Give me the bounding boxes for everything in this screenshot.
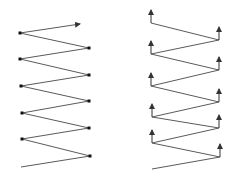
vertex-dot — [89, 155, 92, 158]
vertex-dot — [19, 32, 22, 35]
vertex-dot — [88, 100, 91, 103]
left-zigzag-with-dots — [19, 24, 92, 167]
vertex-dot — [88, 74, 91, 77]
vertex-dot — [19, 58, 22, 61]
vertex-dot — [21, 138, 24, 141]
vertex-dot — [88, 127, 91, 130]
right-zigzag-line — [151, 23, 220, 169]
vertex-dot — [20, 85, 23, 88]
zigzag-diagram-canvas — [0, 0, 232, 187]
vertex-dot — [88, 47, 91, 50]
left-zigzag-line — [20, 24, 90, 167]
vertex-dot — [21, 112, 24, 115]
right-zigzag-with-arrows — [151, 10, 220, 169]
